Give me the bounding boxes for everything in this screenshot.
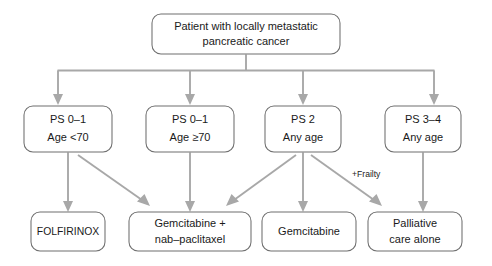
flowchart-canvas: +Frailty Patient with locally metastatic… — [0, 0, 492, 266]
connector-group-root-to-branches — [53, 55, 439, 106]
root-node-line2: pancreatic cancer — [203, 35, 290, 47]
connector-ps01under70-to-gemnab — [78, 155, 142, 200]
treatment-4-line2: care alone — [389, 233, 440, 245]
node-treatment-folfirinox: FOLFIRINOX — [31, 212, 105, 251]
arrowhead-ps2-to-gemnab — [226, 194, 239, 206]
node-treatment-gem-nab-paclitaxel: Gemcitabine + nab–paclitaxel — [129, 212, 251, 251]
arrowhead-ps2-to-palliative — [369, 194, 382, 206]
connector-ps2-to-gemnab — [234, 155, 296, 200]
arrowhead-drop-3 — [298, 94, 308, 105]
node-branch-ps34-any-age: PS 3–4 Any age — [385, 106, 461, 152]
branch-1-line2: Age <70 — [47, 131, 88, 143]
treatment-4-line1: Palliative — [393, 217, 437, 229]
branch-2-line1: PS 0–1 — [172, 113, 208, 125]
treatment-2-line2: nab–paclitaxel — [155, 233, 225, 245]
node-treatment-gemcitabine: Gemcitabine — [262, 212, 356, 251]
arrowhead-drop-4 — [429, 94, 439, 105]
frailty-annotation-label: +Frailty — [352, 169, 381, 179]
branch-3-line1: PS 2 — [291, 113, 315, 125]
connector-group-branches-to-treatments — [63, 153, 428, 213]
node-branch-ps2-any-age: PS 2 Any age — [265, 106, 341, 152]
branch-4-line2: Any age — [403, 131, 443, 143]
branch-1-line1: PS 0–1 — [50, 113, 86, 125]
branch-4-line1: PS 3–4 — [405, 113, 441, 125]
branch-2-line2: Age ≥70 — [170, 131, 211, 143]
arrowhead-ps01under70-to-gemnab — [137, 194, 150, 206]
arrowhead-ps01under70-to-folfirinox — [63, 201, 73, 212]
arrowhead-ps2-to-gemcitabine — [298, 201, 308, 212]
node-branch-ps01-under70: PS 0–1 Age <70 — [24, 106, 112, 152]
arrowhead-ps01over70-to-gemnab — [185, 201, 195, 212]
branch-3-line2: Any age — [283, 131, 323, 143]
flowchart-diagram: +Frailty Patient with locally metastatic… — [0, 0, 492, 266]
arrowhead-drop-2 — [185, 94, 195, 105]
treatment-3-line1: Gemcitabine — [278, 225, 340, 237]
arrowhead-drop-1 — [53, 94, 63, 105]
treatment-1-line1: FOLFIRINOX — [37, 226, 99, 237]
node-treatment-palliative-care: Palliative care alone — [368, 212, 462, 251]
root-node-line1: Patient with locally metastatic — [174, 20, 318, 32]
node-branch-ps01-over70: PS 0–1 Age ≥70 — [146, 106, 234, 152]
node-root: Patient with locally metastatic pancreat… — [152, 14, 340, 54]
treatment-2-line1: Gemcitabine + — [154, 217, 225, 229]
arrowhead-ps34-to-palliative — [418, 201, 428, 212]
